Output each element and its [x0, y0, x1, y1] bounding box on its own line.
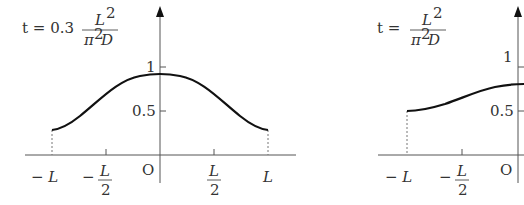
c1-xtick-mL-label: − L — [31, 168, 58, 186]
c1-title-den-d: D — [100, 31, 113, 49]
c2-xtick-mhalf-minus: − — [439, 168, 452, 186]
c1-origin-label: O — [142, 161, 154, 179]
c1-xtick-mhalf-minus: − — [82, 168, 95, 186]
c1-title-lhs: t = 0.3 — [22, 19, 74, 37]
y-axis-arrow-icon — [514, 6, 522, 17]
c2-origin-label: O — [500, 161, 512, 179]
c1-xtick-mhalf-den: 2 — [101, 181, 111, 199]
c2-title-lhs: t = — [377, 19, 400, 37]
c1-ytick-05-label: 0.5 — [132, 102, 156, 120]
c2-ytick-1-label: 1 — [503, 48, 513, 66]
c2-xtick-mhalf-den: 2 — [458, 181, 468, 199]
c1-xtick-phalf-den: 2 — [210, 181, 220, 199]
c1-ytick-1-label: 1 — [146, 58, 156, 76]
c1-xtick-L-label: L — [262, 168, 273, 186]
y-axis-arrow-icon — [156, 6, 164, 17]
c1-xtick-phalf-num: L — [208, 162, 219, 180]
c1-xtick-mhalf-num: L — [99, 162, 110, 180]
figure: t = 0.3 L 2 π 2 D 1 0.5 − L − L 2 O L 2 … — [0, 0, 524, 205]
c2-ytick-05-label: 0.5 — [490, 102, 514, 120]
c2-title-den-d: D — [427, 31, 440, 49]
c1-title-num-sup: 2 — [106, 4, 116, 22]
c2-xtick-mhalf-num: L — [456, 162, 467, 180]
chart-2: t = L 2 π 2 D 1 0.5 − L − L 2 O — [377, 4, 524, 199]
c2-xtick-mL-label: − L — [385, 168, 412, 186]
chart-1: t = 0.3 L 2 π 2 D 1 0.5 − L − L 2 O L 2 … — [22, 4, 296, 199]
c2-title-num-sup: 2 — [433, 4, 443, 22]
